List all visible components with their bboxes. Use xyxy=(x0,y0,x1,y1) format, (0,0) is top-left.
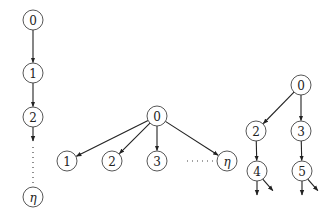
node-label: 5 xyxy=(298,165,306,179)
node-label: 3 xyxy=(297,125,305,139)
node-label: 4 xyxy=(253,165,261,179)
open-edge-t4 xyxy=(263,179,273,190)
node-branching-tree-5: 5 xyxy=(292,161,312,181)
node-star-3: 3 xyxy=(147,151,167,171)
node-branching-tree-2: 2 xyxy=(246,121,266,141)
node-branching-tree-3: 3 xyxy=(291,121,311,141)
open-edge-t5 xyxy=(308,179,318,190)
node-label: 0 xyxy=(29,14,37,28)
nodes-layer: 012η0123η02345 xyxy=(23,10,312,207)
node-label: 1 xyxy=(29,67,37,81)
node-star-2: 2 xyxy=(102,151,122,171)
node-label: 2 xyxy=(252,125,260,139)
edge-branching-tree-t0-t2 xyxy=(263,92,294,123)
node-label: 2 xyxy=(29,111,37,125)
node-label: 2 xyxy=(108,155,116,169)
node-star-η: η xyxy=(217,151,237,171)
edges-layer xyxy=(33,30,318,195)
node-branching-tree-0: 0 xyxy=(291,75,311,95)
node-label: η xyxy=(29,191,37,205)
edge-star-s0-seta xyxy=(165,121,218,155)
node-chain-2: 2 xyxy=(23,107,43,127)
node-label: η xyxy=(223,155,231,169)
node-label: 0 xyxy=(153,110,161,124)
node-label: 0 xyxy=(297,79,305,93)
node-chain-0: 0 xyxy=(23,10,43,30)
node-label: 3 xyxy=(153,155,161,169)
node-star-0: 0 xyxy=(147,106,167,126)
node-chain-η: η xyxy=(23,187,43,207)
node-star-1: 1 xyxy=(57,151,77,171)
node-chain-1: 1 xyxy=(23,63,43,83)
node-branching-tree-4: 4 xyxy=(247,161,267,181)
node-label: 1 xyxy=(63,155,71,169)
graph-diagram: 012η0123η02345 xyxy=(0,0,334,216)
